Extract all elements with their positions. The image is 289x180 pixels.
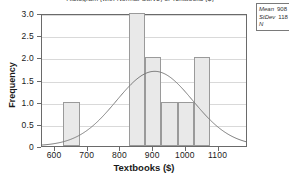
legend-mean-label: Mean: [259, 6, 274, 12]
y-tick-label: 1.5: [22, 76, 34, 86]
plot-area: [41, 14, 247, 147]
x-tick-label: 1000: [175, 150, 195, 160]
y-tick-label: 0: [29, 142, 34, 152]
legend-mean-row: Mean908: [259, 6, 289, 14]
y-tick-label: 0.5: [22, 120, 34, 130]
y-tick-label: 3.0: [22, 9, 34, 19]
x-tick-mark: [54, 147, 55, 151]
legend-mean-value: 908: [277, 6, 287, 12]
legend-n-label: N: [259, 21, 263, 27]
x-tick-mark: [119, 147, 120, 151]
x-tick-label: 1100: [208, 150, 227, 160]
normal-curve-path: [42, 71, 246, 145]
x-tick-label: 600: [47, 150, 62, 160]
x-tick-label: 900: [145, 150, 160, 160]
y-tick-label: 2.5: [22, 31, 34, 41]
legend-n-row: N: [259, 21, 289, 29]
x-tick-mark: [152, 147, 153, 151]
y-tick-mark: [37, 147, 41, 148]
y-tick-label: 2.0: [22, 53, 34, 63]
x-tick-mark: [218, 147, 219, 151]
x-tick-mark: [87, 147, 88, 151]
histogram-figure: Histogram (with Normal Curve) of Textboo…: [0, 0, 289, 180]
legend-stdev-value: 118: [278, 14, 288, 20]
legend-stdev-row: StDev118: [259, 14, 289, 22]
chart-title: Histogram (with Normal Curve) of Textboo…: [40, 0, 240, 2]
x-tick-label: 700: [79, 150, 94, 160]
y-tick-label: 1.0: [22, 98, 34, 108]
statistics-legend: Mean908 StDev118 N: [256, 3, 289, 31]
x-tick-label: 800: [112, 150, 127, 160]
legend-stdev-label: StDev: [259, 14, 275, 20]
normal-curve: [42, 15, 246, 146]
x-tick-mark: [185, 147, 186, 151]
x-axis-title: Textbooks ($): [41, 162, 247, 173]
y-axis: 00.51.01.52.02.53.0: [0, 0, 41, 180]
